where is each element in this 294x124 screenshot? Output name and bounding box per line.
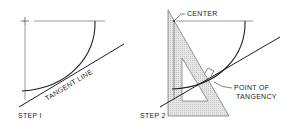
tangent-construction-diagram: TANGENT LINE STEP I CENTER POINT OF TANG… xyxy=(0,0,294,124)
center-leader xyxy=(175,14,185,20)
step2-panel: CENTER POINT OF TANGENCY STEP 2 xyxy=(140,10,280,119)
tangency-leader xyxy=(214,82,232,88)
step1-panel: TANGENT LINE STEP I xyxy=(18,17,124,119)
center-label: CENTER xyxy=(187,10,218,17)
arc xyxy=(22,21,95,91)
step1-label: STEP I xyxy=(18,112,42,119)
center-point xyxy=(173,20,175,22)
tangent-line xyxy=(19,44,124,107)
point-of-tangency-label-line2: TANGENCY xyxy=(236,93,277,100)
center-mark xyxy=(21,17,29,25)
right-angle-marker xyxy=(205,68,214,76)
triangle-tool xyxy=(168,10,229,116)
point-of-tangency-label-line1: POINT OF xyxy=(234,84,269,91)
step2-label: STEP 2 xyxy=(140,112,166,119)
